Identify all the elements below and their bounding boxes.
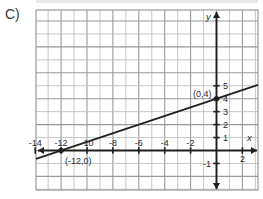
x-tick-label: -14 [29, 138, 42, 148]
x-tick-label: 2 [240, 154, 245, 164]
y-tick-label: 1 [223, 133, 228, 143]
y-tick-label: -1 [203, 159, 211, 169]
y-tick-label: 3 [223, 107, 228, 117]
x-tick-label: -4 [161, 138, 169, 148]
x-tick-label: -12 [55, 138, 68, 148]
point-label: (0,4) [193, 89, 212, 99]
plot-point [58, 148, 63, 153]
coordinate-graph: -14-12-10-8-6-4-2254321-1 (0,4)(-12,0) x… [0, 0, 263, 199]
y-tick-label: 2 [223, 120, 228, 130]
plot-point [214, 96, 219, 101]
x-tick-label: -6 [135, 138, 143, 148]
y-tick-label: 5 [223, 81, 228, 91]
x-tick-label: -2 [187, 138, 195, 148]
y-tick-label: 4 [223, 94, 228, 104]
point-label: (-12,0) [65, 156, 92, 166]
x-tick-label: -10 [80, 138, 93, 148]
x-tick-label: -8 [109, 138, 117, 148]
